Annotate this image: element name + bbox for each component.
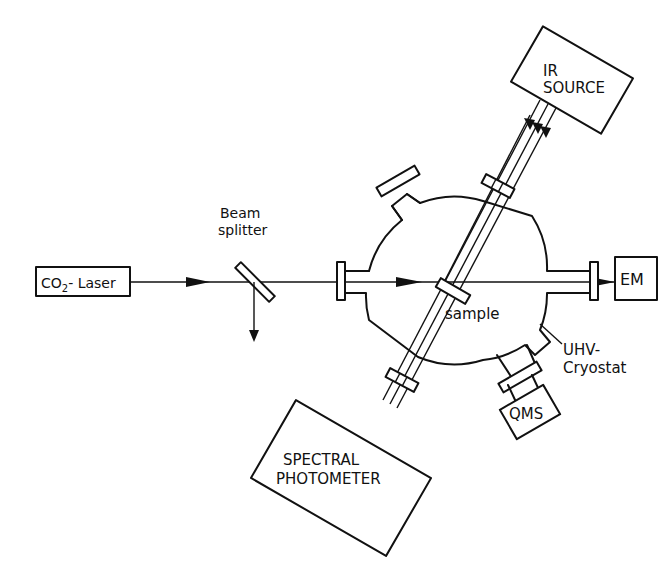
svg-text:SOURCE: SOURCE [543, 79, 605, 97]
beam-splitter-label-line1: Beam [220, 205, 260, 221]
em-detector: EM [615, 257, 657, 300]
setup-diagram: CO2- Laser Beam splitter [0, 0, 670, 579]
spectral-photometer: SPECTRAL PHOTOMETER [251, 400, 431, 556]
sample: sample [436, 278, 500, 323]
laser-beam [130, 277, 615, 287]
ir-beam [383, 100, 556, 408]
uhv-chamber [337, 166, 598, 365]
sample-label: sample [445, 305, 500, 323]
svg-text:UHV-: UHV- [563, 341, 600, 359]
svg-text:IR: IR [543, 62, 558, 80]
co2-laser: CO2- Laser [36, 267, 130, 296]
svg-text:CO2- Laser: CO2- Laser [41, 275, 116, 294]
beam-splitter-label-line2: splitter [218, 222, 268, 238]
svg-text:Cryostat: Cryostat [563, 359, 627, 377]
svg-text:SPECTRAL: SPECTRAL [283, 451, 360, 469]
cryostat-label: UHV- Cryostat [540, 324, 627, 377]
qms: QMS [497, 345, 560, 439]
svg-text:QMS: QMS [509, 405, 543, 423]
svg-text:PHOTOMETER: PHOTOMETER [276, 470, 381, 488]
svg-text:EM: EM [620, 270, 644, 289]
beam-splitter: Beam splitter [218, 205, 275, 342]
